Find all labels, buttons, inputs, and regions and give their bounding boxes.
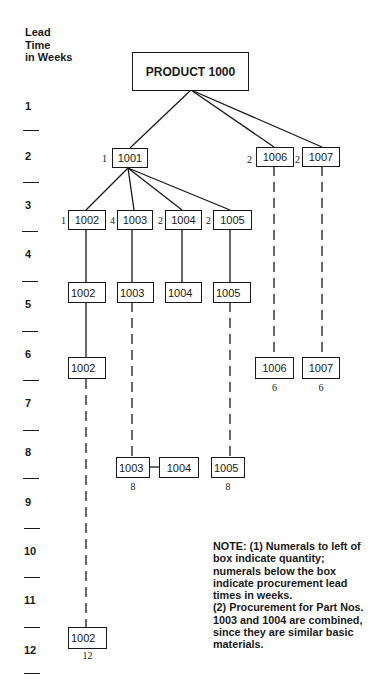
part-label: 1002 <box>71 362 95 374</box>
part-1006-box: 1006 <box>255 357 294 379</box>
note-line: indicate procurement lead <box>213 577 378 589</box>
part-label: 1005 <box>214 462 238 474</box>
product-1000-box: PRODUCT 1000 <box>132 52 249 91</box>
part-label: 1007 <box>309 151 333 163</box>
part-1005-box: 1005 <box>211 457 245 478</box>
note-line: 1003 and 1004 are combined, <box>213 614 378 626</box>
part-label: 1004 <box>167 462 191 474</box>
axis-header-line: Lead <box>25 26 73 39</box>
part-1002-box: 1002 <box>68 357 106 379</box>
product-label: PRODUCT 1000 <box>146 65 235 79</box>
part-label: 1003 <box>120 287 144 299</box>
part-1007-box: 1007 <box>302 357 340 379</box>
week-label: 6 <box>25 348 45 360</box>
week-label: 2 <box>25 150 45 162</box>
part-label: 1005 <box>220 214 244 226</box>
part-1004-box: 1004 <box>165 282 202 303</box>
quantity-label: 2 <box>247 154 252 165</box>
part-1002-box: 1002 <box>68 627 107 649</box>
week-label: 3 <box>25 199 45 211</box>
week-divider <box>22 281 38 282</box>
quantity-label: 2 <box>158 215 163 226</box>
week-label: 9 <box>25 496 45 508</box>
part-1003-box: 1003 <box>117 282 154 303</box>
quantity-label: 4 <box>110 215 115 226</box>
lead-time-label: 6 <box>302 382 340 393</box>
part-1005-box: 1005 <box>213 282 251 303</box>
part-1004-box: 1004 <box>159 457 199 478</box>
part-1005-box: 1005 <box>213 210 252 230</box>
part-label: 1002 <box>71 632 95 644</box>
part-1001-box: 1001 <box>112 148 148 168</box>
note-line: numerals below the box <box>213 565 378 577</box>
part-label: 1003 <box>123 214 147 226</box>
week-divider <box>23 478 39 479</box>
week-divider <box>23 130 39 131</box>
lead-time-label: 8 <box>211 481 245 492</box>
part-label: 1002 <box>71 287 95 299</box>
footnote: NOTE: (1) Numerals to left of box indica… <box>213 540 378 651</box>
quantity-label: 2 <box>295 154 300 165</box>
part-1003-box: 1003 <box>116 457 150 478</box>
week-divider <box>22 231 38 232</box>
part-label: 1004 <box>171 214 195 226</box>
note-line: since they are similar basic <box>213 626 378 638</box>
lead-time-label: 6 <box>255 382 294 393</box>
part-1004-box: 1004 <box>165 210 202 230</box>
week-label: 1 <box>25 100 45 112</box>
note-line: (2) Procurement for Part Nos. <box>213 601 378 613</box>
lead-time-label: 12 <box>68 650 107 661</box>
part-1006-box: 1006 <box>256 147 294 167</box>
quantity-label: 2 <box>206 215 211 226</box>
quantity-label: 1 <box>61 215 66 226</box>
part-1003-box: 1003 <box>117 210 153 230</box>
week-label: 5 <box>25 298 45 310</box>
part-label: 1001 <box>118 152 142 164</box>
axis-header-line: Time <box>25 39 73 52</box>
quantity-label: 1 <box>102 153 107 164</box>
week-divider <box>22 331 38 332</box>
part-label: 1003 <box>119 462 143 474</box>
week-divider <box>24 627 40 628</box>
week-divider <box>24 577 40 578</box>
note-line: NOTE: (1) Numerals to left of <box>213 540 378 552</box>
week-label: 12 <box>24 644 44 656</box>
week-divider <box>23 430 39 431</box>
part-label: 1006 <box>263 151 287 163</box>
note-line: times in weeks. <box>213 589 378 601</box>
part-1007-box: 1007 <box>302 147 340 167</box>
part-label: 1004 <box>168 287 192 299</box>
part-label: 1007 <box>309 362 333 374</box>
note-line: box indicate quantity; <box>213 552 378 564</box>
note-line: materials. <box>213 638 378 650</box>
week-label: 10 <box>24 545 44 557</box>
week-divider <box>23 380 39 381</box>
week-divider <box>24 528 40 529</box>
part-label: 1005 <box>216 287 240 299</box>
part-label: 1002 <box>75 214 99 226</box>
lead-time-label: 8 <box>116 481 150 492</box>
part-1002-box: 1002 <box>68 210 106 230</box>
axis-header-line: in Weeks <box>25 51 73 64</box>
week-label: 8 <box>25 446 45 458</box>
week-label: 7 <box>25 397 45 409</box>
week-label: 4 <box>25 248 45 260</box>
axis-header: Lead Time in Weeks <box>25 26 73 64</box>
part-label: 1006 <box>262 362 286 374</box>
week-divider <box>23 182 39 183</box>
week-label: 11 <box>24 594 44 606</box>
part-1002-box: 1002 <box>68 282 106 303</box>
week-divider <box>24 673 40 674</box>
